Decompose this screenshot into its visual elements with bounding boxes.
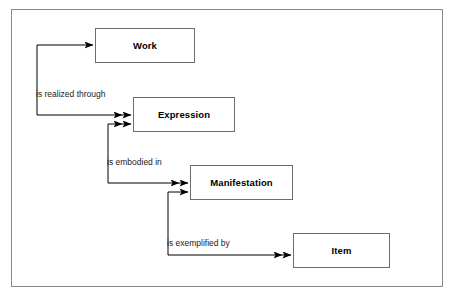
entity-label-work: Work [133,40,157,51]
entity-box-item[interactable]: Item [293,233,390,268]
relationship-label-is-realized-through: is realized through [36,89,105,99]
diagram-canvas: Work Expression Manifestation Item is re… [0,0,454,299]
relationship-label-is-exemplified-by: is exemplified by [167,238,230,248]
entity-label-expression: Expression [158,109,210,120]
entity-box-work[interactable]: Work [95,28,195,63]
relationship-label-is-embodied-in: is embodied in [107,157,162,167]
entity-box-expression[interactable]: Expression [133,97,235,132]
entity-box-manifestation[interactable]: Manifestation [190,165,293,200]
entity-label-item: Item [332,245,352,256]
entity-label-manifestation: Manifestation [210,177,273,188]
connector-expression-to-manifestation [108,124,188,183]
